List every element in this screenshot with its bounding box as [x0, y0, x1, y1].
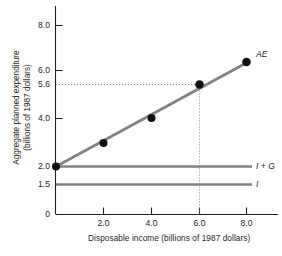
y-tick-label-8-0: 8.0 — [26, 20, 50, 30]
y-axis-ticks — [56, 26, 63, 185]
x-tick-label-6-0: 6.0 — [188, 218, 212, 228]
x-tick-label-8-0: 8.0 — [235, 218, 259, 228]
y-axis-title-line-1: Aggregate planned expenditure — [12, 18, 23, 198]
data-point-ae-0 — [52, 163, 60, 171]
x-tick-label-4-0: 4.0 — [140, 218, 164, 228]
series-label-ae: AE — [256, 49, 267, 59]
y-tick-label-1-5: 1.5 — [26, 179, 50, 189]
y-tick-label-5-6: 5.6 — [26, 79, 50, 89]
series-label-i-plus-g: I + G — [256, 161, 275, 171]
chart-container: Aggregate planned expenditure (billions … — [0, 0, 282, 256]
y-tick-label-6-0: 6.0 — [26, 65, 50, 75]
x-tick-label-2-0: 2.0 — [92, 218, 116, 228]
y-tick-label-0: 0 — [26, 209, 50, 219]
x-axis-title: Disposable income (billions of 1987 doll… — [88, 234, 250, 243]
y-tick-label-4-0: 4.0 — [26, 113, 50, 123]
data-point-ae-3 — [195, 80, 204, 89]
y-tick-label-2-0: 2.0 — [26, 161, 50, 171]
x-axis-ticks — [104, 208, 247, 215]
data-point-ae-2 — [148, 114, 156, 122]
data-point-ae-1 — [100, 139, 108, 147]
series-label-i: I — [256, 179, 258, 189]
data-point-ae-4 — [242, 58, 251, 67]
